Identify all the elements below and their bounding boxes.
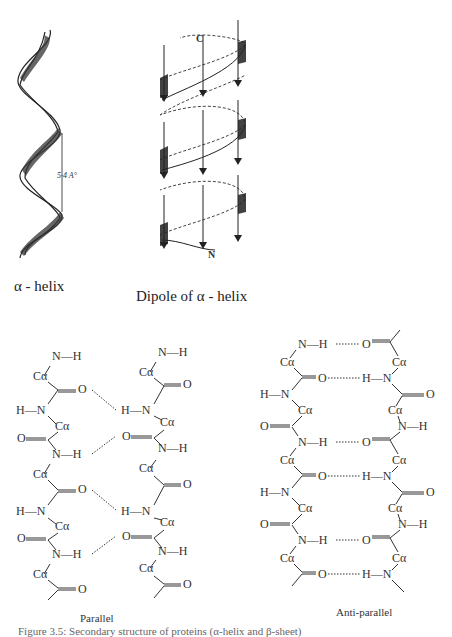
- svg-text:Cα: Cα: [392, 551, 407, 565]
- svg-text:O: O: [362, 435, 371, 449]
- svg-text:N—H: N—H: [398, 517, 428, 531]
- pitch-annotation: 5·4 A°: [57, 171, 78, 180]
- svg-text:O: O: [122, 529, 131, 543]
- svg-text:O: O: [260, 419, 269, 433]
- svg-text:Cα: Cα: [392, 453, 407, 467]
- dipole-label: Dipole of α - helix: [136, 288, 247, 305]
- parallel-sheet-diagram: N—H Cα O H—N Cα O N—H Cα O H—N Cα O N—H …: [0, 330, 230, 600]
- svg-text:Cα: Cα: [388, 403, 403, 417]
- svg-text:N—H: N—H: [158, 345, 188, 359]
- svg-text:O: O: [426, 387, 435, 401]
- svg-text:H—N: H—N: [16, 403, 46, 417]
- svg-text:N—H: N—H: [52, 547, 82, 561]
- svg-text:O: O: [122, 429, 131, 443]
- svg-text:H—N: H—N: [260, 387, 290, 401]
- n-terminus-label: N: [208, 249, 216, 260]
- svg-text:Cα: Cα: [298, 501, 313, 515]
- svg-text:O: O: [426, 485, 435, 499]
- alpha-helix-label: α - helix: [14, 278, 64, 295]
- svg-text:Cα: Cα: [388, 501, 403, 515]
- svg-text:Cα: Cα: [280, 551, 295, 565]
- svg-text:O: O: [183, 477, 192, 491]
- svg-text:H—N: H—N: [362, 371, 392, 385]
- svg-text:H—N: H—N: [260, 485, 290, 499]
- svg-text:Cα: Cα: [33, 567, 48, 581]
- svg-text:O: O: [362, 533, 371, 547]
- svg-text:Cα: Cα: [33, 467, 48, 481]
- svg-text:Cα: Cα: [139, 561, 154, 575]
- svg-text:H—N: H—N: [121, 403, 151, 417]
- svg-text:N—H: N—H: [298, 435, 328, 449]
- parallel-label: Parallel: [80, 612, 114, 624]
- svg-text:H—N: H—N: [362, 469, 392, 483]
- antiparallel-label: Anti-parallel: [336, 606, 392, 618]
- svg-text:Cα: Cα: [139, 365, 154, 379]
- svg-text:Cα: Cα: [139, 461, 154, 475]
- svg-text:N—H: N—H: [158, 441, 188, 455]
- svg-text:Cα: Cα: [33, 369, 48, 383]
- dipole-helix-drawing: C N: [140, 0, 270, 270]
- svg-text:O: O: [318, 469, 327, 483]
- svg-text:N—H: N—H: [158, 544, 188, 558]
- antiparallel-sheet-diagram: N—H Cα O H—N Cα O N—H Cα O H—N Cα O N—H …: [240, 330, 452, 600]
- svg-text:O: O: [183, 377, 192, 391]
- svg-text:H—N: H—N: [121, 504, 151, 518]
- svg-text:O: O: [17, 431, 26, 445]
- svg-text:N—H: N—H: [52, 349, 82, 363]
- svg-text:O: O: [78, 482, 87, 496]
- svg-text:O: O: [362, 337, 371, 351]
- svg-text:Cα: Cα: [160, 415, 175, 429]
- svg-text:H—N: H—N: [362, 567, 392, 581]
- svg-text:N—H: N—H: [298, 337, 328, 351]
- alpha-helix-drawing: 5·4 A°: [0, 0, 140, 270]
- figure-caption: Figure 3.5: Secondary structure of prote…: [18, 625, 302, 637]
- svg-text:Cα: Cα: [298, 403, 313, 417]
- svg-text:Cα: Cα: [280, 453, 295, 467]
- svg-text:O: O: [183, 577, 192, 591]
- svg-text:O: O: [78, 582, 87, 596]
- svg-text:N—H: N—H: [298, 533, 328, 547]
- svg-text:Cα: Cα: [55, 419, 70, 433]
- svg-text:Cα: Cα: [160, 515, 175, 529]
- svg-text:O: O: [17, 531, 26, 545]
- svg-text:O: O: [318, 567, 327, 581]
- svg-text:Cα: Cα: [392, 355, 407, 369]
- svg-text:N—H: N—H: [52, 447, 82, 461]
- c-terminus-label: C: [196, 33, 203, 44]
- svg-text:O: O: [78, 382, 87, 396]
- svg-text:N—H: N—H: [398, 419, 428, 433]
- svg-text:Cα: Cα: [55, 519, 70, 533]
- svg-text:Cα: Cα: [280, 355, 295, 369]
- svg-text:O: O: [260, 517, 269, 531]
- svg-text:O: O: [318, 371, 327, 385]
- svg-text:H—N: H—N: [16, 504, 46, 518]
